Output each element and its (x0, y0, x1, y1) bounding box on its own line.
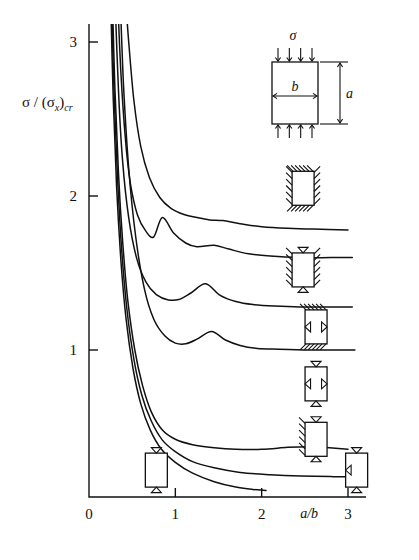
y-tick-label: 3 (70, 34, 78, 50)
plate-loading-inset: σba (272, 28, 353, 138)
chart-canvas: 1230123a/bσ / (σx)crσba (0, 0, 419, 560)
x-tick-label: 2 (258, 506, 266, 522)
icon-sides-clamped (286, 247, 320, 292)
plate-buckling-chart: 1230123a/bσ / (σx)crσba (0, 0, 419, 560)
svg-text:σ / (σx)cr: σ / (σx)cr (22, 94, 73, 113)
y-tick-label: 1 (70, 342, 78, 358)
icon-one-edge-free (346, 448, 368, 493)
inset-height-label: a (346, 86, 353, 101)
icon-all-simply-supported (305, 361, 327, 406)
y-axis-label: σ / (σx)cr (22, 94, 73, 113)
icon-all-clamped (286, 165, 320, 211)
inset-stress-label: σ (290, 28, 298, 43)
icon-sides-free (145, 448, 167, 493)
curve-all-edges-simply-supported (120, 0, 355, 350)
curve-ends-clamped-sides-simply-supported (115, 0, 352, 307)
icon-one-side-clamped (299, 417, 327, 462)
x-tick-label: 1 (172, 506, 180, 522)
y-tick-label: 2 (70, 188, 78, 204)
inset-width-label: b (292, 79, 299, 94)
boundary-condition-icons (145, 165, 367, 492)
x-tick-label: 3 (344, 506, 352, 522)
curve-sides-clamped-ends-simply-supported (118, 0, 353, 258)
x-axis-label: a/b (300, 506, 318, 521)
x-tick-label: 0 (85, 506, 93, 522)
icon-ends-clamped (300, 304, 327, 350)
